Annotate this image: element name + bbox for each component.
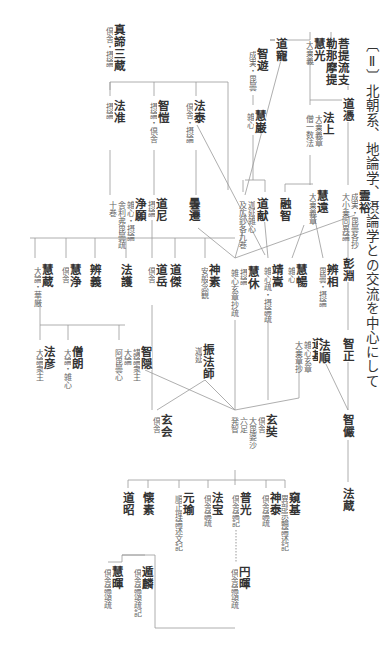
- monk-name: 彭淵: [342, 258, 354, 282]
- monk-node-reiyu: 霊裕成実・毘曇各抄大小乗同異論: [340, 190, 370, 249]
- monk-name: 法護: [120, 264, 132, 288]
- monk-name: 振法師: [202, 344, 214, 380]
- monk-node-fuko: 普光倶舎論記: [230, 492, 251, 527]
- monk-node-jinso: 神素安般念観: [199, 264, 220, 299]
- monk-node-soro: 僧朗大論・雑心: [62, 346, 83, 389]
- monk-name: 円暉: [238, 566, 250, 590]
- monk-name: 慧光: [313, 38, 325, 62]
- connector-line: [245, 180, 265, 192]
- monk-name: 懐素: [142, 492, 154, 516]
- monk-node-bodhiruci: 菩提流支勒那摩提: [325, 38, 349, 86]
- monk-name: 霊裕: [358, 190, 370, 214]
- monk-name: 智隠: [140, 346, 152, 370]
- monk-node-shinhobu: 振法師迦延: [193, 344, 214, 380]
- monk-works-note: 雑心玄章抄疏: [229, 269, 238, 317]
- monk-name: 普光: [239, 492, 251, 516]
- monk-name: 浄願: [134, 198, 146, 222]
- monk-node-bensho: 辨相毘曇・摂論: [317, 264, 338, 307]
- monk-node-genne: 玄会倶舎: [151, 414, 172, 438]
- monk-name: 道傑: [169, 264, 181, 288]
- monk-name: 融智: [279, 198, 291, 222]
- monk-node-dosen: 曇遷: [188, 198, 200, 222]
- monk-works-note: 大乗章抄: [293, 341, 302, 373]
- monk-name: 慧遠: [316, 190, 328, 214]
- monk-node-ejo: 慧浄倶舎: [60, 264, 81, 288]
- monk-node-chion: 智隠講論衆主大論阿毘曇心: [113, 346, 152, 381]
- monk-node-doni: 道尼摂論: [146, 198, 167, 222]
- monk-node-eso: 懐素: [142, 492, 154, 516]
- monk-works-note: 阿毘曇心: [113, 349, 122, 381]
- monk-name: 道岳: [155, 264, 167, 288]
- monk-name: 智儼: [342, 414, 354, 438]
- monk-name: 慧蔵: [41, 264, 53, 288]
- monk-node-chigen: 智儼: [342, 414, 354, 438]
- monk-name: 玄会: [160, 414, 172, 438]
- monk-name: 窺基: [288, 492, 300, 516]
- connector-line: [235, 398, 299, 410]
- monk-node-dogaku: 道岳倶舎: [146, 264, 167, 288]
- monk-node-hogo: 法護: [120, 264, 132, 288]
- monk-node-hozo: 法蔵: [342, 488, 354, 512]
- monk-node-ekyu: 慧休摂論雑心玄章抄疏: [229, 266, 259, 317]
- monk-node-enki: 円暉倶舎論頌疏: [229, 566, 250, 609]
- monk-name: 法准: [113, 100, 125, 124]
- monk-name: 真諦三蔵: [113, 24, 125, 72]
- monk-works-note: 六足: [238, 417, 247, 433]
- monk-works-note: 大毘婆沙: [247, 417, 256, 449]
- monk-name: 遁麟: [141, 566, 153, 590]
- monk-works-note: 舎利弗毘曇疏: [116, 201, 125, 249]
- monk-name: 道献: [256, 198, 268, 222]
- monk-works-note: 及広鈔各九巻: [237, 201, 246, 249]
- monk-name: 法泰: [193, 100, 205, 124]
- monk-name: 法順: [318, 340, 330, 364]
- monk-node-jintai: 神泰倶舎論疏: [260, 492, 281, 527]
- monk-node-egen: 慧巌雑心: [245, 110, 266, 134]
- monk-name: 靖嵩: [271, 264, 283, 288]
- monk-node-genyu: 元瑜順正理論述文記: [173, 492, 194, 551]
- monk-name: 慧浄: [69, 264, 81, 288]
- monk-name: 道昭: [122, 492, 134, 516]
- monk-name: 菩提流支: [337, 38, 349, 86]
- connector-line: [324, 360, 348, 410]
- connector-line: [205, 380, 235, 410]
- monk-name: 僧朗: [71, 346, 83, 370]
- monk-node-onrin: 遁麟倶舎論頌疏記: [132, 566, 153, 617]
- monk-name: 道尼: [155, 198, 167, 222]
- monk-node-docho: 道寵: [275, 38, 287, 62]
- monk-node-hogen: 法彦大論衆主: [34, 346, 55, 381]
- monk-name: 元瑜: [182, 492, 194, 516]
- monk-name: 神素: [208, 264, 220, 288]
- monk-node-chigai: 智愷摂論・倶舎: [148, 100, 169, 143]
- monk-node-hoho: 法宝倶舎論疏: [202, 492, 223, 527]
- monk-node-jogen: 浄願雑心・摂論舎利弗毘曇疏十巻: [107, 198, 146, 249]
- monk-name: 曇遷: [188, 198, 200, 222]
- monk-node-hojo: 法上大乗義章僧一数法: [304, 112, 334, 147]
- monk-name: 法上: [322, 112, 334, 136]
- monk-name: 法彦: [43, 346, 55, 370]
- monk-node-genjo: 玄奘倶舎大毘婆沙六足発智: [229, 414, 277, 449]
- connector-line: [157, 380, 205, 410]
- monk-node-hotai: 法泰倶舎・摂論: [184, 100, 205, 143]
- monk-name: 辨義: [89, 264, 101, 288]
- monk-name: 法蔵: [342, 488, 354, 512]
- monk-name: 慧暉: [111, 566, 123, 590]
- monk-node-chisho: 智正: [342, 338, 354, 362]
- monk-works-note: 大論: [122, 349, 131, 365]
- monk-node-seiso: 靖嵩雑心疏・摂論疏: [262, 264, 283, 323]
- monk-works-note: 大小乗同異論: [340, 193, 349, 241]
- monk-name: 辨相: [326, 264, 338, 288]
- monk-node-hosen: 彭淵: [342, 258, 354, 282]
- monk-node-yuchi: 融智: [279, 198, 291, 222]
- monk-node-hojun2: 法順: [318, 340, 330, 364]
- monk-node-doketsu: 道傑: [169, 264, 181, 288]
- monk-node-ekatsu: 慧暢雑心: [286, 264, 307, 288]
- monk-name: 慧暢: [295, 264, 307, 288]
- monk-node-dojo_top: 道憑: [342, 98, 354, 122]
- monk-node-eon: 慧遠大乗義章: [307, 190, 328, 225]
- monk-name: 慧休: [247, 266, 259, 290]
- monk-works-note: 僧一数法: [304, 115, 313, 147]
- monk-name: 慧巌: [254, 110, 266, 134]
- monk-node-kiki: 窺基異部宗輪論述記: [279, 492, 300, 551]
- monk-name: 道寵: [275, 38, 287, 62]
- connector-line: [292, 225, 304, 258]
